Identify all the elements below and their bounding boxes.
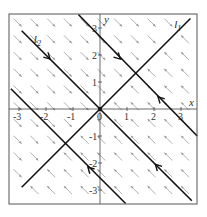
y-axis-label: y [103, 13, 109, 25]
x-axis-label: x [188, 96, 194, 108]
field-arrow [148, 153, 156, 161]
field-arrow [148, 69, 156, 77]
field-arrow [148, 186, 156, 194]
field-arrow [30, 186, 38, 194]
x-tick-label: -1 [67, 111, 75, 122]
field-arrow [81, 69, 89, 77]
field-arrow [148, 136, 156, 144]
field-arrow [131, 86, 139, 94]
field-arrow [181, 86, 189, 94]
field-arrow [64, 86, 72, 94]
y-tick-label: -3 [89, 185, 97, 196]
field-arrow [14, 35, 22, 43]
field-arrow [64, 169, 72, 177]
field-arrow [114, 69, 122, 77]
field-arrow [181, 186, 189, 194]
field-arrow [164, 153, 172, 161]
origin-equilibrium-point [98, 107, 102, 111]
field-arrow [131, 119, 139, 127]
field-arrow [81, 52, 89, 60]
field-arrow [114, 35, 122, 43]
field-arrow [164, 136, 172, 144]
field-arrow [30, 19, 38, 27]
field-arrow [97, 52, 105, 60]
field-arrow [30, 52, 38, 60]
field-arrow [97, 69, 105, 77]
field-arrow [47, 19, 55, 27]
x-tick-label: 2 [151, 111, 156, 122]
field-arrow [114, 19, 122, 27]
field-arrow [164, 52, 172, 60]
field-arrow [47, 69, 55, 77]
field-arrow [64, 52, 72, 60]
field-arrow [164, 186, 172, 194]
field-arrow [14, 153, 22, 161]
field-arrow [131, 186, 139, 194]
phase-portrait-diagram: -3-2-10123 321-1-2-3 x y l1l2 [0, 0, 207, 217]
field-arrow [64, 153, 72, 161]
field-arrow [114, 136, 122, 144]
field-arrow [181, 169, 189, 177]
field-arrow [164, 19, 172, 27]
field-arrow [114, 153, 122, 161]
field-arrow [81, 86, 89, 94]
field-arrow [181, 136, 189, 144]
x-tick-label: -3 [13, 111, 21, 122]
field-arrow [81, 136, 89, 144]
field-arrow [181, 35, 189, 43]
field-arrow [164, 69, 172, 77]
field-arrow [30, 119, 38, 127]
field-arrow [131, 52, 139, 60]
field-arrow [148, 19, 156, 27]
field-arrow [64, 19, 72, 27]
l1-label: l1 [174, 18, 181, 33]
field-arrow [114, 169, 122, 177]
y-tick-label: -1 [89, 131, 97, 142]
field-arrow [148, 169, 156, 177]
field-arrow [47, 186, 55, 194]
l2-label: l2 [34, 33, 41, 48]
field-arrow [164, 169, 172, 177]
y-tick-label: 1 [92, 77, 97, 88]
field-arrow [14, 69, 22, 77]
field-arrow [30, 69, 38, 77]
y-tick-label: 2 [92, 50, 97, 61]
x-tick-label: 0 [97, 111, 102, 122]
field-arrow [97, 153, 105, 161]
field-arrow [97, 86, 105, 94]
field-arrow [64, 186, 72, 194]
field-arrow [97, 136, 105, 144]
x-tick-label: -2 [40, 111, 48, 122]
field-arrow [64, 69, 72, 77]
field-arrow [164, 119, 172, 127]
field-arrow [30, 136, 38, 144]
field-arrow [14, 136, 22, 144]
field-arrow [131, 153, 139, 161]
field-arrow [81, 35, 89, 43]
field-arrow [47, 35, 55, 43]
field-arrow [131, 19, 139, 27]
field-arrow [30, 86, 38, 94]
field-arrow [164, 86, 172, 94]
x-tick-label: 1 [124, 111, 129, 122]
field-arrow [181, 69, 189, 77]
field-arrow [47, 169, 55, 177]
field-arrow [30, 153, 38, 161]
field-arrow [81, 169, 89, 177]
line-lower-trajectory [11, 89, 126, 204]
field-arrow [148, 35, 156, 43]
field-arrow [114, 119, 122, 127]
field-arrow [97, 35, 105, 43]
field-arrow [64, 35, 72, 43]
field-arrow [14, 52, 22, 60]
field-arrow [81, 186, 89, 194]
field-arrow [131, 35, 139, 43]
field-arrow [14, 19, 22, 27]
field-arrow [47, 86, 55, 94]
field-arrow [181, 52, 189, 60]
field-arrow [47, 136, 55, 144]
field-arrow [131, 136, 139, 144]
field-arrow [131, 169, 139, 177]
field-arrow [14, 169, 22, 177]
field-arrow [181, 153, 189, 161]
